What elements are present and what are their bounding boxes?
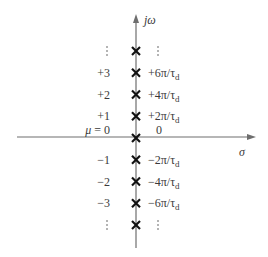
pole-location-label: −6π/τd: [148, 196, 180, 212]
imaginary-axis-label: jω: [142, 13, 156, 27]
location-ellipsis: [157, 220, 159, 230]
pole-location-label: +4π/τd: [148, 88, 180, 104]
mu-ellipsis: [106, 220, 108, 230]
mu-label: −2: [97, 175, 110, 189]
mu-label: −3: [97, 196, 110, 210]
pole-row: −2−4π/τd: [97, 175, 180, 191]
pole-row: +3+6π/τd: [97, 66, 180, 82]
pole-diagram: jω σ +3+6π/τd+2+4π/τd+1+2π/τdμ = 00−1−2π…: [0, 0, 268, 257]
mu-label: +1: [97, 109, 110, 123]
pole-row: +2+4π/τd: [97, 88, 180, 104]
pole-row-ellipsis: [106, 220, 159, 230]
mu-label: +3: [97, 66, 110, 80]
real-axis-label: σ: [239, 145, 246, 159]
mu-label: μ = 0: [84, 123, 110, 137]
pole-row: −3−6π/τd: [97, 196, 180, 212]
real-axis-arrowhead: [247, 134, 256, 140]
pole-location-label: 0: [156, 123, 162, 137]
pole-row: −1−2π/τd: [97, 153, 180, 169]
mu-label: −1: [97, 153, 110, 167]
pole-row-origin: μ = 00: [84, 123, 162, 142]
mu-label: +2: [97, 88, 110, 102]
pole-location-label: +2π/τd: [148, 109, 180, 125]
pole-location-label: −4π/τd: [148, 175, 180, 191]
location-ellipsis: [157, 46, 159, 56]
mu-ellipsis: [106, 46, 108, 56]
pole-rows: +3+6π/τd+2+4π/τd+1+2π/τdμ = 00−1−2π/τd−2…: [84, 46, 180, 230]
pole-location-label: −2π/τd: [148, 153, 180, 169]
imaginary-axis-arrowhead: [133, 14, 139, 23]
pole-row-ellipsis: [106, 46, 159, 56]
pole-location-label: +6π/τd: [148, 66, 180, 82]
